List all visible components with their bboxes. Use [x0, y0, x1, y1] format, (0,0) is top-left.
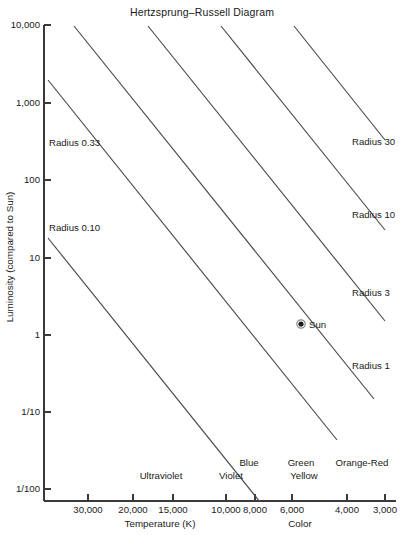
sun-label: Sun — [309, 319, 326, 330]
color-band-label-violet: Violet — [219, 470, 243, 481]
chart-background — [0, 0, 407, 535]
sun-marker-dot — [298, 321, 303, 326]
x-tick-label: 6,000 — [280, 504, 304, 515]
y-tick-label: 1/100 — [16, 483, 40, 494]
color-band-label-orange-red: Orange-Red — [336, 457, 389, 468]
x-axis-title-temperature: Temperature (K) — [125, 518, 196, 529]
color-band-label-yellow: Yellow — [290, 470, 317, 481]
hr-diagram-plot: Hertzsprung–Russell Diagram 10,0001,0001… — [0, 0, 407, 535]
radius-label-radius-3: Radius 3 — [352, 287, 390, 298]
y-tick-label: 10 — [29, 252, 40, 263]
radius-label-radius-0-33: Radius 0.33 — [49, 137, 100, 148]
x-axis-title-color: Color — [288, 518, 312, 529]
color-band-label-green: Green — [288, 457, 315, 468]
x-tick-label: 15,000 — [158, 504, 187, 515]
y-tick-label: 100 — [24, 174, 40, 185]
y-axis-title-luminosity: Luminosity (compared to Sun) — [4, 192, 15, 323]
x-tick-label: 20,000 — [118, 504, 147, 515]
color-band-label-blue: Blue — [239, 457, 258, 468]
x-tick-label: 30,000 — [73, 504, 102, 515]
color-band-label-ultraviolet: Ultraviolet — [140, 470, 183, 481]
radius-label-radius-0-10: Radius 0.10 — [49, 222, 100, 233]
radius-label-radius-10: Radius 10 — [352, 209, 395, 220]
x-tick-label: 4,000 — [335, 504, 359, 515]
y-tick-label: 1 — [35, 329, 40, 340]
radius-label-radius-30: Radius 30 — [352, 136, 395, 147]
chart-title: Hertzsprung–Russell Diagram — [130, 6, 274, 18]
radius-label-radius-1: Radius 1 — [352, 360, 390, 371]
y-tick-label: 1,000 — [16, 97, 40, 108]
y-tick-label: 10,000 — [11, 19, 40, 30]
x-tick-label: 3,000 — [373, 504, 397, 515]
x-axis-tick-labels: 30,00020,00015,00010,0008,0006,0004,0003… — [73, 504, 397, 515]
x-tick-label: 10,000 — [211, 504, 240, 515]
x-tick-label: 8,000 — [243, 504, 267, 515]
hertzsprung-russell-figure: Hertzsprung–Russell Diagram 10,0001,0001… — [0, 0, 407, 535]
y-tick-label: 1/10 — [21, 406, 40, 417]
